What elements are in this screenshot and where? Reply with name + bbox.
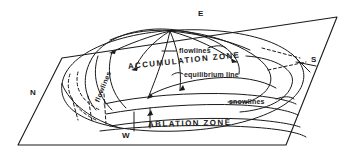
compass-label-west: W — [122, 132, 130, 140]
glacier-perspective-drawing — [0, 0, 346, 155]
figure-canvas: N E S W ACCUMULATION ZONE ABLATION ZONE … — [0, 0, 346, 155]
equilibrium-line — [152, 77, 276, 94]
ice-cap-margin — [62, 30, 304, 132]
equilibrium-leader — [172, 73, 183, 75]
annotation-equilibrium-line: equilibrium line — [184, 71, 239, 78]
annotation-flowlines-top: flowlines — [179, 47, 211, 54]
compass-label-north: N — [30, 89, 36, 97]
compass-label-south: S — [311, 56, 316, 64]
compass-label-east: E — [198, 10, 203, 18]
annotation-snowlines: snowlines — [229, 98, 265, 105]
